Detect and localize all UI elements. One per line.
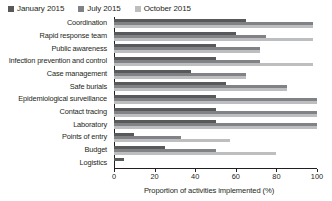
bar [114,114,317,117]
bar [114,123,317,126]
y-axis-label: Safe burials [70,83,107,90]
bar [114,101,317,104]
bar [114,38,313,41]
bar [114,95,216,98]
bar [114,88,287,91]
legend-entry: October 2015 [135,5,191,13]
bar [114,82,226,85]
bar [114,47,260,50]
bar [114,126,317,129]
bar [114,76,246,79]
bar [114,85,287,88]
x-tick-label: 0 [112,173,116,181]
bar [114,22,313,25]
y-axis-label: Laboratory [73,121,107,128]
bar [114,136,181,139]
x-axis-title-text: Proportion of activities implemented (%) [58,186,274,195]
x-tick-label: 80 [272,173,280,181]
chart-legend: January 2015July 2015October 2015 [8,3,191,15]
y-axis-label: Budget [84,146,107,153]
bar [114,158,124,161]
y-axis-label: Infection prevention and control [9,57,107,64]
y-axis-label: Public awareness [51,45,107,52]
bar [114,57,216,60]
legend-label: January 2015 [17,5,64,13]
bar [114,133,134,136]
x-axis-ticks: 020406080100 [114,169,317,183]
bar [114,111,317,114]
bar [114,149,216,152]
x-tick-label: 20 [150,173,158,181]
bar [114,139,230,142]
bar [114,50,260,53]
bar [114,44,216,47]
bar [114,70,191,73]
x-axis-title: Proportion of activities implemented (%) [0,186,332,195]
bar [114,25,313,28]
y-axis-label: Points of entry [62,133,107,140]
bar [114,152,276,155]
y-axis-label: Coordination [67,19,107,26]
y-axis-label: Contact tracing [60,108,107,115]
legend-swatch-icon [78,6,84,12]
bar [114,32,236,35]
plot-area [114,17,317,169]
y-axis-label: Logistics [80,159,107,166]
bar [114,108,216,111]
x-tick-label: 60 [232,173,240,181]
legend-label: July 2015 [87,5,120,13]
y-axis-labels: CoordinationRapid response teamPublic aw… [0,17,110,169]
bar [114,98,317,101]
bar [114,19,246,22]
legend-swatch-icon [8,6,14,12]
legend-entry: July 2015 [78,5,120,13]
x-tick-label: 40 [191,173,199,181]
bar [114,63,313,66]
legend-entry: January 2015 [8,5,64,13]
bar [114,60,260,63]
y-axis-label: Rapid response team [40,32,107,39]
bar [114,73,246,76]
bar [114,35,266,38]
y-axis-label: Epidemiological surveillance [18,95,107,102]
plot-wrapper: CoordinationRapid response teamPublic aw… [0,17,332,169]
bar [114,146,165,149]
legend-swatch-icon [135,6,141,12]
x-tick-label: 100 [311,173,323,181]
bar-chart: January 2015July 2015October 2015 Coordi… [0,0,332,201]
bar [114,120,216,123]
legend-label: October 2015 [144,5,191,13]
y-axis-label: Case management [47,70,107,77]
